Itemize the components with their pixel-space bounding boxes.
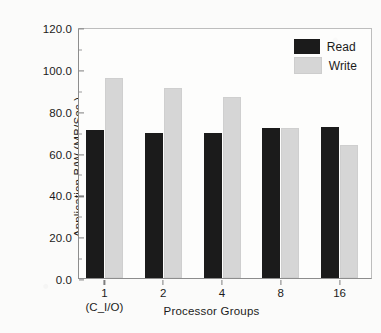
y-tick-label: 100.0: [43, 65, 79, 77]
x-tick-mark: [339, 280, 340, 285]
x-tick-label: 4: [219, 287, 225, 299]
x-tick-mark: [221, 280, 222, 285]
bar-write-4: [223, 97, 241, 278]
x-tick-mark: [280, 280, 281, 285]
y-tick-mark: [79, 196, 84, 197]
x-tick-label: 8: [278, 287, 284, 299]
bar-chart-figure: Application B/W (MB/Sec.) 0.020.040.060.…: [0, 0, 381, 333]
bar-write-2: [164, 88, 182, 278]
x-tick-mark: [163, 280, 164, 285]
y-tick-label: 20.0: [49, 232, 79, 244]
x-tick-label: 2: [160, 287, 166, 299]
y-tick-mark: [79, 28, 84, 29]
y-tick-mark: [79, 238, 84, 239]
x-tick-label: 16: [333, 287, 346, 299]
plot-area: 0.020.040.060.080.0100.0120.0 1(C_I/O)24…: [78, 28, 372, 279]
legend-swatch-read-icon: [294, 39, 320, 54]
x-axis-title-text: Processor Groups: [122, 305, 260, 317]
y-tick-mark: [79, 70, 84, 71]
bar-read-4: [204, 133, 222, 278]
y-tick-mark: [79, 279, 84, 280]
x-tick-mark: [104, 280, 105, 285]
y-minor-tick-mark: [79, 91, 82, 92]
y-minor-tick-mark: [79, 133, 82, 134]
bar-read-2: [145, 133, 163, 278]
bar-read-8: [262, 128, 280, 278]
y-minor-tick-mark: [79, 217, 82, 218]
bar-write-1: [105, 78, 123, 278]
y-minor-tick-mark: [79, 49, 82, 50]
y-tick-label: 40.0: [49, 190, 79, 202]
bar-write-8: [281, 128, 299, 278]
y-tick-label: 80.0: [49, 107, 79, 119]
y-tick-mark: [79, 154, 84, 155]
legend-item-write: Write: [294, 57, 357, 74]
bar-write-16: [340, 145, 358, 278]
legend-swatch-write-icon: [294, 57, 322, 74]
bar-read-16: [321, 127, 339, 278]
x-tick-label: 1: [101, 287, 107, 299]
legend-label-read: Read: [327, 40, 356, 54]
y-tick-mark: [79, 112, 84, 113]
y-tick-label: 60.0: [49, 149, 79, 161]
y-tick-label: 0.0: [56, 274, 79, 286]
legend-label-write: Write: [329, 59, 357, 73]
y-minor-tick-mark: [79, 175, 82, 176]
y-tick-label: 120.0: [43, 23, 79, 35]
bar-read-1: [86, 130, 104, 278]
y-minor-tick-mark: [79, 259, 82, 260]
legend-item-read: Read: [294, 39, 357, 54]
chart-legend: Read Write: [294, 39, 357, 74]
x-axis-title: Processor Groups: [0, 305, 381, 317]
